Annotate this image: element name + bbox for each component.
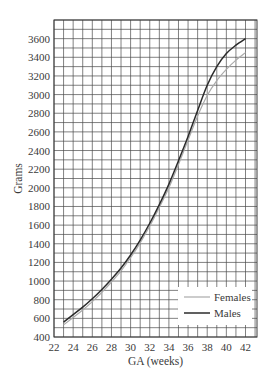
- legend: Females Males: [178, 287, 252, 325]
- y-tick-label: 2200: [28, 163, 51, 175]
- y-tick-label: 1000: [28, 275, 51, 287]
- y-tick-label: 3400: [28, 51, 51, 63]
- x-tick-label: 22: [49, 341, 60, 353]
- y-tick-label: 600: [34, 312, 51, 324]
- x-tick-label: 28: [106, 341, 118, 353]
- x-tick-label: 38: [202, 341, 214, 353]
- x-tick-label: 34: [163, 341, 175, 353]
- y-tick-label: 800: [34, 294, 51, 306]
- y-tick-label: 1800: [28, 200, 51, 212]
- y-tick-label: 1400: [28, 238, 51, 250]
- y-tick-label: 2000: [28, 182, 51, 194]
- y-tick-label: 3600: [28, 33, 51, 45]
- x-axis-label: GA (weeks): [128, 355, 183, 368]
- males-curve: [64, 39, 246, 322]
- y-tick-label: 3000: [28, 89, 51, 101]
- y-tick-label: 1200: [28, 256, 51, 268]
- x-tick-label: 32: [144, 341, 155, 353]
- data-series: [64, 39, 246, 325]
- y-tick-label: 1600: [28, 219, 51, 231]
- y-axis-label: Grams: [12, 163, 24, 194]
- x-tick-label: 26: [87, 341, 99, 353]
- y-tick-label: 2400: [28, 145, 51, 157]
- x-tick-label: 24: [68, 341, 80, 353]
- x-tick-label: 30: [125, 341, 137, 353]
- y-axis-ticks: 4006008001000120014001600180020002200240…: [28, 33, 51, 343]
- y-tick-label: 3200: [28, 70, 51, 82]
- legend-males-label: Males: [214, 307, 241, 319]
- y-tick-label: 2600: [28, 126, 51, 138]
- growth-chart: 4006008001000120014001600180020002200240…: [0, 0, 269, 386]
- x-axis-ticks: 2224262830323436384042: [49, 341, 252, 353]
- x-tick-label: 36: [183, 341, 195, 353]
- x-tick-label: 42: [240, 341, 251, 353]
- y-tick-label: 2800: [28, 107, 51, 119]
- females-curve: [64, 53, 246, 325]
- legend-females-label: Females: [214, 291, 251, 303]
- x-tick-label: 40: [221, 341, 233, 353]
